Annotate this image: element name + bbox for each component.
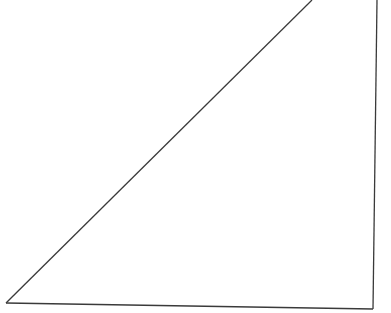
canvas-background [0, 0, 391, 313]
triangle-diagram [0, 0, 391, 313]
